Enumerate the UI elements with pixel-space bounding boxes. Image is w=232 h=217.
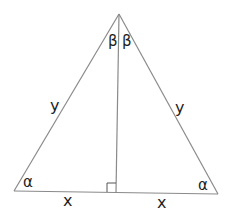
left-base-angle-label: α (23, 175, 33, 190)
left-base-segment-label: x (63, 193, 72, 209)
triangle-diagram: β β y y α α x x (0, 0, 232, 217)
right-base-segment-label: x (157, 195, 166, 211)
right-base-angle-label: α (198, 178, 208, 193)
left-side-label: y (50, 98, 59, 114)
right-angle-marker (107, 183, 116, 192)
apex-right-angle-label: β (122, 34, 132, 49)
left-side-line (14, 14, 119, 191)
apex-left-angle-label: β (108, 34, 118, 49)
right-side-line (119, 14, 218, 194)
right-side-label: y (175, 100, 184, 116)
